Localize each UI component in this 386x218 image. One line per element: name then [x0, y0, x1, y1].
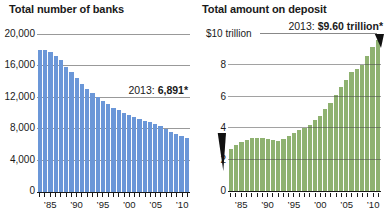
- axis-tick: [176, 193, 177, 197]
- axis-tick: [330, 193, 331, 197]
- bars: [228, 34, 381, 191]
- axis-tick: [373, 193, 374, 197]
- x-axis-label: ’05: [340, 199, 353, 210]
- y-axis-label: 16,000: [4, 59, 35, 71]
- axis-tick: [357, 193, 358, 197]
- annotation-prefix: 2013:: [128, 84, 157, 96]
- bar-1985: [229, 149, 233, 191]
- bank-count-chart: Total number of banks 2013: 6,891* 04,00…: [0, 0, 193, 218]
- bar-2004: [137, 119, 141, 192]
- chart-title: Total number of banks: [9, 3, 124, 15]
- x-axis-label: ’90: [70, 199, 83, 210]
- axis-tick: [309, 193, 310, 197]
- axis-tick: [139, 193, 140, 197]
- axis-tick: [97, 193, 98, 197]
- bar-1989: [59, 60, 63, 192]
- bar-1998: [297, 130, 301, 191]
- y-axis-label: 6: [220, 91, 226, 103]
- x-ticks: [37, 193, 190, 197]
- axis-tick: [367, 193, 368, 197]
- axis-tick: [246, 193, 247, 197]
- bar-1986: [43, 50, 47, 192]
- bar-1988: [54, 56, 58, 192]
- annotation: 2013: 6,891*: [128, 84, 188, 96]
- bar-1987: [48, 52, 52, 192]
- axis-tick: [336, 193, 337, 197]
- annotation-value: $9.60 trillion*: [318, 20, 383, 32]
- bar-2004: [328, 103, 332, 191]
- axis-tick: [160, 193, 161, 197]
- annotation-prefix: 2013:: [288, 20, 317, 32]
- axis-tick: [299, 193, 300, 197]
- x-axis-label: ’10: [367, 199, 380, 210]
- x-axis-label: ’10: [176, 199, 189, 210]
- x-ticks: [228, 193, 381, 197]
- bar-1996: [287, 136, 291, 191]
- bar-1992: [75, 78, 79, 192]
- bar-2008: [349, 72, 353, 191]
- bar-2011: [365, 56, 369, 191]
- x-axis-label: ’95: [97, 199, 110, 210]
- bar-1993: [271, 140, 275, 191]
- axis-tick: [39, 193, 40, 197]
- axis-tick: [325, 193, 326, 197]
- bar-2007: [153, 124, 157, 192]
- x-axis-label: ’95: [288, 199, 301, 210]
- bar-1985: [38, 50, 42, 192]
- bar-1994: [85, 89, 89, 192]
- axis-tick: [76, 193, 77, 197]
- gridline: [228, 127, 381, 128]
- axis-tick: [351, 193, 352, 197]
- axis-tick: [145, 193, 146, 197]
- bar-1999: [111, 108, 115, 192]
- axis-tick: [113, 193, 114, 197]
- axis-tick: [257, 193, 258, 197]
- bar-2009: [164, 129, 168, 192]
- bar-2008: [158, 126, 162, 192]
- axis-tick: [155, 193, 156, 197]
- plot-area: [37, 34, 190, 193]
- axis-tick: [362, 193, 363, 197]
- bar-1987: [239, 142, 243, 191]
- plot-area: [228, 34, 381, 192]
- y-axis-label: 20,000: [4, 28, 35, 40]
- bar-1989: [250, 138, 254, 191]
- axis-tick: [241, 193, 242, 197]
- y-axis-label: 12,000: [4, 91, 35, 103]
- bar-1998: [106, 104, 110, 192]
- x-axis-label: ’00: [123, 199, 136, 210]
- chart-title: Total amount on deposit: [202, 3, 327, 15]
- bank-consolidation-figure: Total number of banks 2013: 6,891* 04,00…: [0, 0, 386, 218]
- axis-tick: [251, 193, 252, 197]
- bar-1990: [64, 67, 68, 192]
- y-axis-label: 0: [220, 185, 226, 197]
- axis-tick: [66, 193, 67, 197]
- bar-2005: [334, 95, 338, 191]
- bar-2010: [169, 132, 173, 192]
- bar-2006: [148, 122, 152, 192]
- axis-tick: [230, 193, 231, 197]
- bar-1996: [96, 97, 100, 192]
- axis-tick: [71, 193, 72, 197]
- y-axis-label: 4: [220, 122, 226, 134]
- x-axis-label: ’85: [235, 199, 248, 210]
- axis-tick: [341, 193, 342, 197]
- bar-1990: [255, 138, 259, 191]
- axis-tick: [235, 193, 236, 197]
- axis-tick: [187, 193, 188, 197]
- y-axis-label: 0: [29, 185, 35, 197]
- bar-2002: [127, 115, 131, 192]
- bar-1991: [260, 138, 264, 191]
- axis-tick: [55, 193, 56, 197]
- gridline: [228, 159, 381, 160]
- axis-tick: [262, 193, 263, 197]
- bar-2013: [185, 138, 189, 192]
- axis-tick: [278, 193, 279, 197]
- bar-2006: [339, 87, 343, 191]
- axis-tick: [283, 193, 284, 197]
- gridline: [228, 64, 381, 65]
- axis-tick: [134, 193, 135, 197]
- bar-1993: [80, 84, 84, 192]
- axis-tick: [87, 193, 88, 197]
- bar-2000: [117, 110, 121, 192]
